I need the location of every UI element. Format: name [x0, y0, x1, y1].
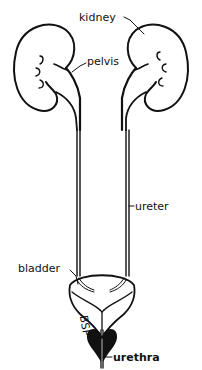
urinary-system-diagram: BSP kidney pelvis ureter bladder urethra — [0, 0, 202, 370]
urethra — [101, 330, 103, 368]
label-pelvis-group: pelvis — [72, 55, 119, 72]
label-urethra-group: urethra — [103, 351, 160, 364]
right-kidney — [122, 25, 188, 130]
right-ureter — [126, 130, 129, 276]
label-ureter: ureter — [135, 200, 169, 213]
label-pelvis: pelvis — [87, 55, 119, 68]
label-kidney: kidney — [79, 11, 116, 24]
left-ureter — [77, 130, 80, 276]
label-bladder-group: bladder — [18, 262, 78, 284]
artist-signature: BSP — [77, 314, 94, 337]
left-kidney — [14, 25, 80, 130]
label-ureter-group: ureter — [129, 200, 169, 213]
label-bladder: bladder — [18, 262, 61, 275]
label-urethra: urethra — [113, 351, 160, 364]
